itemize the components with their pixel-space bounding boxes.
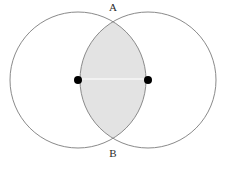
circles-diagram-canvas bbox=[0, 0, 231, 169]
right-center-dot bbox=[144, 76, 152, 84]
vertex-label-b: B bbox=[103, 148, 123, 159]
left-center-dot bbox=[74, 76, 82, 84]
vertex-label-a: A bbox=[103, 2, 123, 13]
geometry-figure: A B bbox=[0, 0, 231, 169]
